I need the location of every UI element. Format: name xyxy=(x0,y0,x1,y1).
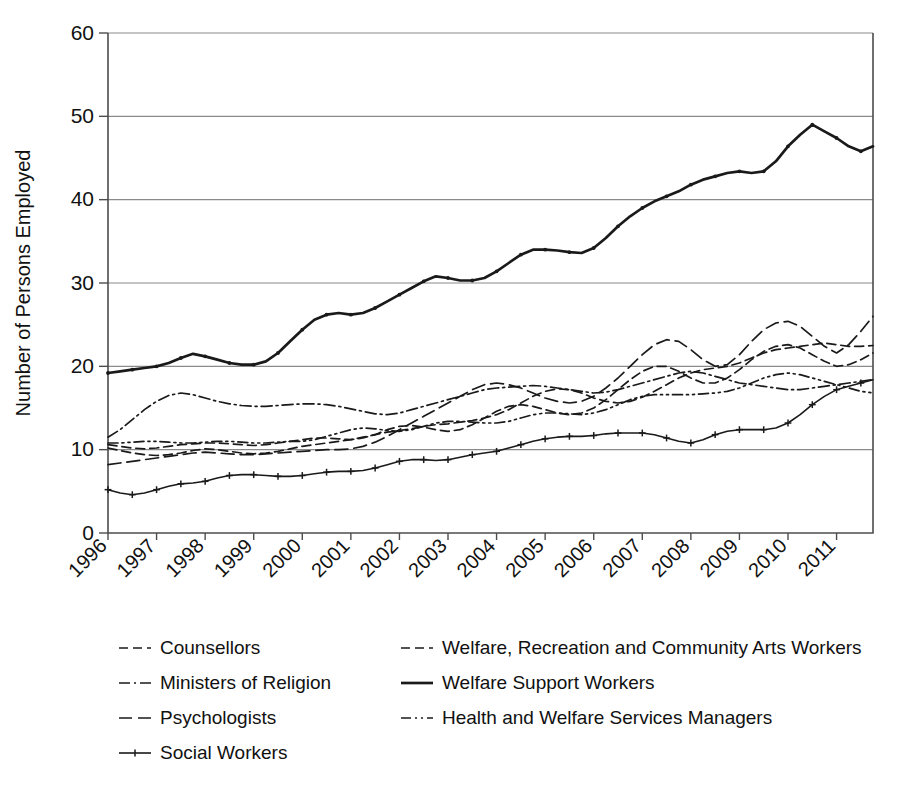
legend-item-label: Welfare, Recreation and Community Arts W… xyxy=(442,638,862,657)
series-welfare-support-workers xyxy=(106,123,873,375)
y-tick-label: 20 xyxy=(71,354,94,377)
x-tick-label: 2009 xyxy=(695,534,742,581)
series-line xyxy=(108,380,873,495)
x-tick-label: 1997 xyxy=(112,534,159,581)
chart-svg: 0102030405060 19961997199819992000200120… xyxy=(0,0,902,600)
data-series xyxy=(105,123,873,498)
legend-item[interactable]: Ministers of Religion xyxy=(118,665,418,700)
y-tick-label: 30 xyxy=(71,271,94,294)
x-tick-label: 2000 xyxy=(258,534,305,581)
x-tick-label: 2008 xyxy=(647,534,694,581)
legend-item-label: Psychologists xyxy=(160,708,276,727)
legend-item-label: Social Workers xyxy=(160,743,287,762)
legend-line-swatch-icon xyxy=(118,711,152,725)
legend-item[interactable]: Psychologists xyxy=(118,700,418,735)
x-tick-label: 2003 xyxy=(404,534,451,581)
legend-item-label: Welfare Support Workers xyxy=(442,673,655,692)
x-tick-label: 2007 xyxy=(598,534,645,581)
legend-line-swatch-icon xyxy=(118,746,152,760)
legend-item[interactable]: Welfare Support Workers xyxy=(400,665,900,700)
x-tick-label: 1998 xyxy=(161,534,208,581)
legend-item-label: Health and Welfare Services Managers xyxy=(442,708,772,727)
y-tick-label: 50 xyxy=(71,104,94,127)
legend-item[interactable]: Counsellors xyxy=(118,630,418,665)
x-tick-label: 2005 xyxy=(501,534,548,581)
series-line xyxy=(108,371,873,437)
x-tick-label: 2010 xyxy=(744,534,791,581)
y-tick-label: 40 xyxy=(71,187,94,210)
series-ministers-of-religion xyxy=(108,371,873,437)
line-chart: 0102030405060 19961997199819992000200120… xyxy=(0,0,902,600)
legend-item[interactable]: Social Workers xyxy=(118,735,418,770)
legend-column-right: Welfare, Recreation and Community Arts W… xyxy=(400,630,900,735)
legend-line-swatch-icon xyxy=(118,676,152,690)
y-tick-label: 60 xyxy=(71,21,94,44)
x-axis-ticks: 1996199719981999200020012002200320042005… xyxy=(64,533,840,581)
x-axis-title: Year xyxy=(471,597,512,600)
y-axis-title: Number of Persons Employed xyxy=(12,150,34,417)
series-line xyxy=(108,316,873,464)
legend-item-label: Ministers of Religion xyxy=(160,673,331,692)
legend-item[interactable]: Health and Welfare Services Managers xyxy=(400,700,900,735)
x-tick-label: 2001 xyxy=(307,534,354,581)
series-psychologists xyxy=(108,316,873,464)
x-tick-label: 2011 xyxy=(793,534,839,580)
x-tick-label: 1996 xyxy=(64,534,111,581)
chart-page: 0102030405060 19961997199819992000200120… xyxy=(0,0,902,805)
legend-line-swatch-icon xyxy=(400,711,434,725)
x-tick-label: 2006 xyxy=(550,534,597,581)
series-social-workers xyxy=(105,380,873,498)
legend-item[interactable]: Welfare, Recreation and Community Arts W… xyxy=(400,630,900,665)
x-tick-label: 1999 xyxy=(210,534,257,581)
legend-line-swatch-icon xyxy=(400,676,434,690)
y-tick-label: 10 xyxy=(71,437,94,460)
chart-legend: CounsellorsMinisters of ReligionPsycholo… xyxy=(0,630,902,770)
legend-item-label: Counsellors xyxy=(160,638,260,657)
y-axis-ticks: 0102030405060 xyxy=(71,21,108,544)
legend-column-left: CounsellorsMinisters of ReligionPsycholo… xyxy=(118,630,418,770)
legend-line-swatch-icon xyxy=(400,641,434,655)
grid-lines xyxy=(108,33,873,450)
x-tick-label: 2002 xyxy=(355,534,402,581)
x-tick-label: 2004 xyxy=(452,534,499,581)
legend-line-swatch-icon xyxy=(118,641,152,655)
